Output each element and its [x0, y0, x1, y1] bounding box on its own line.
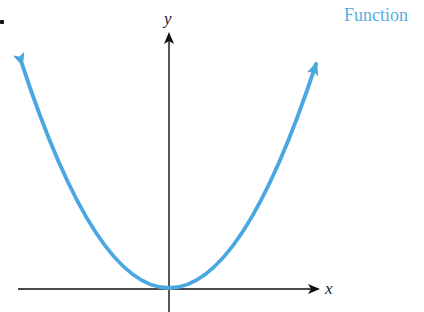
function-graph: y x: [0, 0, 424, 312]
y-axis-label: y: [162, 9, 172, 28]
x-axis-label: x: [324, 279, 333, 298]
